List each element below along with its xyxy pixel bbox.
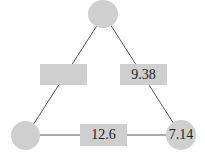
- node-bottom-right: 7.14: [166, 120, 196, 150]
- edge-label-left: [40, 64, 87, 85]
- edge-label-bottom: 12.6: [80, 124, 127, 146]
- node-bottom-left: [11, 121, 40, 150]
- node-top: [88, 0, 118, 28]
- edge-label-right: 9.38: [120, 64, 167, 85]
